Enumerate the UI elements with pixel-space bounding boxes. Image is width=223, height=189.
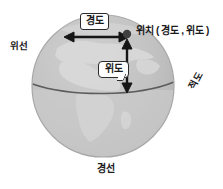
meridian-label: 경선 [97, 164, 114, 174]
latitude-label: 위도 [98, 61, 129, 78]
coordinate-point-marker [123, 30, 131, 38]
parallel-line-label: 위선 [10, 41, 27, 51]
longitude-label: 경도 [80, 13, 109, 30]
position-coordinate-label: 위치 ( 경도 , 위도 ) [136, 26, 209, 36]
globe-diagram-figure: 경도 위도 위치 ( 경도 , 위도 ) 위선 적도 경선 [0, 0, 223, 189]
